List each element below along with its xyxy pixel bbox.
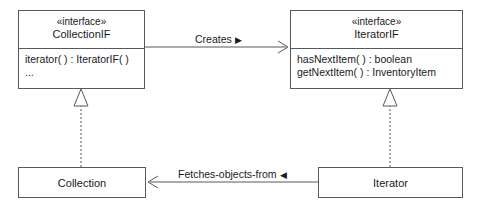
member-row: getNextItem( ) : InventoryItem <box>297 66 456 79</box>
class-box-iterator[interactable]: Iterator <box>318 167 463 198</box>
class-header-collection-if: «interface» CollectionIF <box>19 11 144 48</box>
direction-marker-icon: ◀ <box>280 170 287 180</box>
iterator-realization-connector[interactable] <box>383 89 397 167</box>
class-box-collection-if[interactable]: «interface» CollectionIF iterator( ) : I… <box>18 10 145 89</box>
edge-label-text: Fetches-objects-from <box>178 168 277 180</box>
class-name-label: CollectionIF <box>19 28 144 41</box>
edge-label-fetches-objects-from: Fetches-objects-from ◀ <box>175 168 290 181</box>
member-row: iterator( ) : IteratorIF( ) <box>25 53 138 66</box>
uml-class-diagram: «interface» CollectionIF iterator( ) : I… <box>0 0 481 206</box>
class-members-collection-if: iterator( ) : IteratorIF( ) ... <box>19 48 144 89</box>
class-header-iterator-if: «interface» IteratorIF <box>291 11 462 48</box>
member-row: ... <box>25 66 138 79</box>
edge-label-text: Creates <box>195 33 232 45</box>
class-name-label: Collection <box>58 177 106 189</box>
class-box-collection[interactable]: Collection <box>18 167 146 198</box>
stereotype-label: «interface» <box>19 15 144 28</box>
direction-marker-icon: ▶ <box>235 35 242 45</box>
class-name-label: IteratorIF <box>291 28 462 41</box>
class-box-iterator-if[interactable]: «interface» IteratorIF hasNextItem( ) : … <box>290 10 463 89</box>
class-members-iterator-if: hasNextItem( ) : boolean getNextItem( ) … <box>291 48 462 89</box>
stereotype-label: «interface» <box>291 15 462 28</box>
collection-realization-connector[interactable] <box>74 89 88 167</box>
member-row: hasNextItem( ) : boolean <box>297 53 456 66</box>
class-name-label: Iterator <box>373 177 408 189</box>
edge-label-creates: Creates ▶ <box>192 33 245 46</box>
